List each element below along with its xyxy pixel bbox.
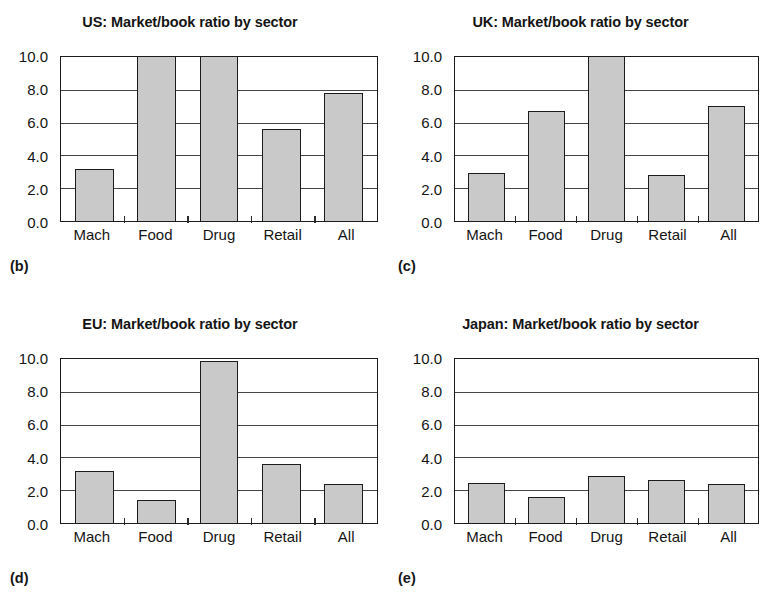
y-tick-label: 8.0 — [27, 383, 48, 400]
figure-panel-grid: US: Market/book ratio by sector 0.02.04.… — [0, 0, 781, 604]
y-tick-label: 4.0 — [421, 147, 442, 164]
chart-panel-japan: Japan: Market/book ratio by sector 0.02.… — [390, 302, 781, 604]
plot-frame-us — [60, 56, 378, 222]
x-axis-label-food: Food — [515, 226, 576, 243]
x-axis-label-all: All — [314, 226, 378, 243]
x-tick — [637, 216, 638, 223]
bar-slot — [636, 359, 696, 523]
bar-retail — [648, 480, 685, 523]
x-axis-label-food: Food — [124, 226, 188, 243]
bar-slot — [313, 359, 375, 523]
bar-retail — [262, 464, 301, 523]
bar-slot — [696, 359, 756, 523]
bar-all — [324, 93, 363, 221]
x-axis-label-mach: Mach — [60, 528, 124, 545]
bar-series-japan — [455, 359, 758, 523]
y-tick-label: 0.0 — [27, 214, 48, 231]
bar-slot — [250, 57, 312, 221]
panel-letter-c: (c) — [398, 258, 416, 274]
x-axis-label-retail: Retail — [637, 528, 698, 545]
y-tick-label: 8.0 — [421, 81, 442, 98]
y-tick-label: 10.0 — [19, 48, 48, 65]
x-axis-label-retail: Retail — [251, 528, 315, 545]
x-axis-labels-japan: MachFoodDrugRetailAll — [454, 528, 759, 545]
x-tick — [314, 216, 315, 223]
y-tick-label: 4.0 — [27, 449, 48, 466]
bar-slot — [577, 57, 637, 221]
x-axis-label-food: Food — [124, 528, 188, 545]
y-tick-label: 8.0 — [27, 81, 48, 98]
x-axis-labels-eu: MachFoodDrugRetailAll — [60, 528, 378, 545]
y-tick-label: 2.0 — [421, 180, 442, 197]
y-tick-label: 10.0 — [19, 350, 48, 367]
bar-slot — [577, 359, 637, 523]
bar-all — [324, 484, 363, 523]
x-axis-label-drug: Drug — [187, 528, 251, 545]
x-axis-label-retail: Retail — [251, 226, 315, 243]
chart-title-uk: UK: Market/book ratio by sector — [390, 14, 771, 30]
bar-all — [708, 106, 745, 221]
y-tick-label: 6.0 — [421, 416, 442, 433]
x-axis-label-drug: Drug — [576, 226, 637, 243]
x-tick — [187, 518, 188, 525]
bar-food — [528, 497, 565, 523]
x-axis-label-drug: Drug — [576, 528, 637, 545]
bar-slot — [457, 57, 517, 221]
plot-frame-uk — [454, 56, 759, 222]
x-tick — [698, 216, 699, 223]
x-tick — [251, 518, 252, 525]
bar-retail — [648, 175, 685, 221]
y-axis-labels-us: 0.02.04.06.08.010.0 — [0, 56, 54, 222]
bar-slot — [125, 359, 187, 523]
bar-food — [528, 111, 565, 221]
bar-slot — [188, 359, 250, 523]
bar-slot — [457, 359, 517, 523]
x-tick — [251, 216, 252, 223]
x-axis-label-all: All — [314, 528, 378, 545]
panel-letter-d: (d) — [10, 570, 29, 586]
bar-slot — [636, 57, 696, 221]
bar-drug — [200, 57, 239, 221]
y-tick-label: 10.0 — [413, 48, 442, 65]
y-tick-label: 2.0 — [27, 482, 48, 499]
bar-food — [137, 57, 176, 221]
bar-retail — [262, 129, 301, 221]
x-tick — [124, 216, 125, 223]
plot-area-eu — [60, 358, 378, 524]
y-tick-label: 4.0 — [27, 147, 48, 164]
plot-frame-japan — [454, 358, 759, 524]
bar-drug — [200, 361, 239, 523]
plot-area-japan — [454, 358, 759, 524]
plot-area-uk — [454, 56, 759, 222]
y-axis-labels-japan: 0.02.04.06.08.010.0 — [390, 358, 448, 524]
x-axis-label-all: All — [698, 528, 759, 545]
y-tick-label: 10.0 — [413, 350, 442, 367]
bar-series-us — [61, 57, 377, 221]
x-axis-label-mach: Mach — [454, 226, 515, 243]
x-tick — [637, 518, 638, 525]
x-tick — [576, 518, 577, 525]
y-axis-labels-uk: 0.02.04.06.08.010.0 — [390, 56, 448, 222]
bar-slot — [63, 57, 125, 221]
x-axis-label-mach: Mach — [454, 528, 515, 545]
y-tick-label: 8.0 — [421, 383, 442, 400]
chart-title-us: US: Market/book ratio by sector — [0, 14, 380, 30]
x-tick — [124, 518, 125, 525]
bar-series-eu — [61, 359, 377, 523]
chart-panel-uk: UK: Market/book ratio by sector 0.02.04.… — [390, 0, 781, 302]
x-axis-label-food: Food — [515, 528, 576, 545]
x-axis-label-drug: Drug — [187, 226, 251, 243]
x-axis-labels-us: MachFoodDrugRetailAll — [60, 226, 378, 243]
y-tick-label: 0.0 — [421, 214, 442, 231]
bar-slot — [188, 57, 250, 221]
chart-panel-us: US: Market/book ratio by sector 0.02.04.… — [0, 0, 390, 302]
x-axis-label-retail: Retail — [637, 226, 698, 243]
bar-slot — [517, 57, 577, 221]
y-axis-labels-eu: 0.02.04.06.08.010.0 — [0, 358, 54, 524]
bar-drug — [588, 476, 625, 523]
bar-slot — [696, 57, 756, 221]
bar-drug — [588, 57, 625, 221]
y-tick-label: 4.0 — [421, 449, 442, 466]
chart-panel-eu: EU: Market/book ratio by sector 0.02.04.… — [0, 302, 390, 604]
bar-slot — [517, 359, 577, 523]
